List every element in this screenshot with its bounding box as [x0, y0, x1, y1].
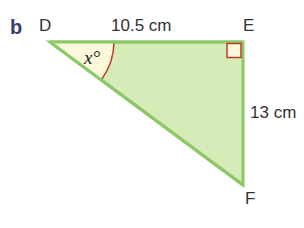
vertex-f-label: F [245, 190, 255, 207]
vertex-e-label: E [243, 17, 254, 34]
angle-x-label: x° [84, 47, 100, 69]
right-angle-marker [227, 44, 241, 58]
vertex-d-label: D [39, 17, 51, 34]
part-label: b [10, 16, 22, 39]
side-ef-length: 13 cm [250, 104, 296, 121]
side-de-length: 10.5 cm [111, 17, 171, 34]
